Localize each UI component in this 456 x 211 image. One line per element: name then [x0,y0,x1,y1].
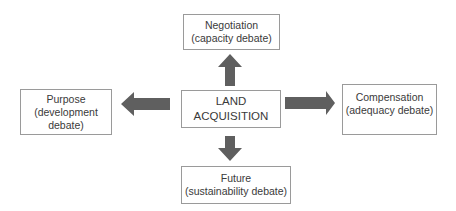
negotiation-subtitle: (capacity debate) [191,32,272,45]
compensation-title: Compensation [356,91,424,104]
compensation-box: Compensation (adequacy debate) [342,84,437,135]
purpose-box: Purpose (development debate) [20,89,112,135]
compensation-subtitle: (adequacy debate) [346,104,434,117]
center-line-1: LAND [216,94,247,109]
future-title: Future [221,172,251,185]
negotiation-title: Negotiation [205,19,258,32]
negotiation-box: Negotiation (capacity debate) [183,14,280,50]
future-subtitle: (sustainability debate) [185,185,287,198]
land-acquisition-box: LAND ACQUISITION [181,90,281,128]
future-box: Future (sustainability debate) [181,166,291,204]
arrow-down-icon [217,136,243,161]
center-line-2: ACQUISITION [194,109,269,124]
arrow-right-icon [285,91,335,115]
purpose-title: Purpose [46,93,85,106]
arrow-up-icon [217,54,243,86]
purpose-subtitle-1: (development [34,106,98,119]
arrow-left-icon [121,92,170,116]
purpose-subtitle-2: debate) [48,119,84,132]
